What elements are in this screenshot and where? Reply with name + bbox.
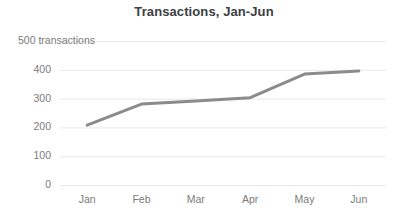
y-axis-tick-label: 400 — [0, 63, 51, 75]
x-axis-tick-label: May — [275, 193, 335, 205]
line-chart: Transactions, Jan-Jun 0100200300400500 t… — [0, 0, 408, 218]
y-axis-tick-label: 200 — [0, 120, 51, 132]
y-axis-tick-label: 0 — [0, 178, 51, 190]
x-axis-tick-label: Apr — [220, 193, 280, 205]
y-axis-tick-label: 300 — [0, 92, 51, 104]
x-axis-tick-label: Feb — [112, 193, 172, 205]
x-axis-tick-label: Jan — [57, 193, 117, 205]
x-axis-tick-label: Jun — [329, 193, 389, 205]
data-series-line — [87, 71, 359, 125]
x-axis-tick-label: Mar — [166, 193, 226, 205]
plot-area — [0, 0, 408, 218]
gridlines — [60, 42, 386, 186]
y-axis-tick-label: 500 transactions — [18, 34, 95, 46]
y-axis-tick-label: 100 — [0, 149, 51, 161]
